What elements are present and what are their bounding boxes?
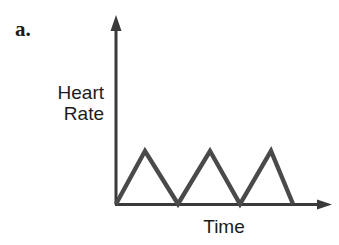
figure-panel-a: a. Heart Rate Time (0, 0, 339, 245)
plot-area (0, 0, 339, 245)
arrow-right-icon (317, 200, 332, 210)
arrow-up-icon (111, 15, 122, 31)
x-axis-title: Time (176, 216, 272, 238)
heart-rate-trace (116, 151, 293, 204)
